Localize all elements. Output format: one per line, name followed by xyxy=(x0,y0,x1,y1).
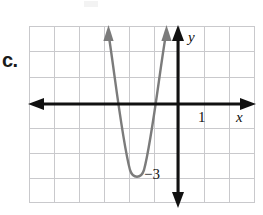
coordinate-graph-figure: y x 1 −3 xyxy=(0,0,263,215)
y-axis-tick-label-negative-3: −3 xyxy=(144,167,160,182)
x-axis-left-arrow-icon xyxy=(28,98,44,110)
graph-page: c. xyxy=(0,0,263,215)
x-axis-tick-label-1: 1 xyxy=(198,110,206,125)
x-axis xyxy=(28,98,256,110)
y-axis-down-arrow-icon xyxy=(172,192,184,208)
x-axis-label: x xyxy=(236,110,243,125)
y-axis-up-arrow-icon xyxy=(172,25,184,41)
grid-lines xyxy=(29,26,255,203)
y-axis-label: y xyxy=(188,30,195,45)
y-axis xyxy=(172,25,184,208)
coordinate-plane-svg xyxy=(0,0,263,215)
curve-right-arrow-icon xyxy=(161,25,171,41)
